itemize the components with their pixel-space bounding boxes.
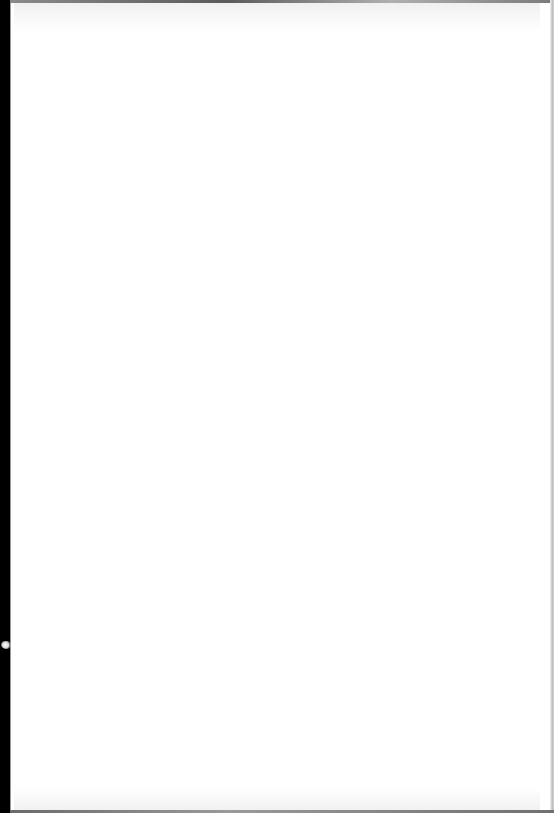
top-bleed-through [14, 3, 540, 33]
binding-speck [1, 641, 11, 649]
page-body [30, 40, 524, 773]
bottom-bleed-through [14, 788, 540, 810]
page-left-edge [10, 0, 11, 813]
scanned-page [0, 0, 554, 813]
left-scan-margin [0, 0, 10, 813]
page-right-edge [550, 0, 554, 813]
